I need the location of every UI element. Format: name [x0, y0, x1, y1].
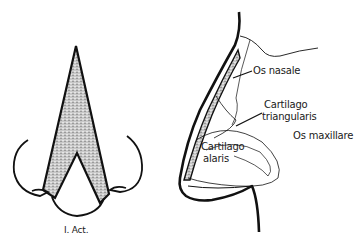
- label-cartilago-alaris-1: Cartilago: [201, 141, 245, 152]
- front-view-caption: I. Act.: [64, 225, 88, 236]
- label-os-maxillare: Os maxillare: [293, 130, 353, 141]
- front-cartilage-shape: [43, 46, 109, 203]
- os-nasale-lower-edge: [232, 40, 250, 125]
- os-nasale-outline: [240, 36, 318, 56]
- label-cartilago-triangularis-2: triangularis: [262, 111, 317, 122]
- front-view: [14, 46, 142, 216]
- label-os-nasale: Os nasale: [253, 65, 300, 76]
- right-ala-curve: [110, 136, 142, 192]
- side-view: [180, 12, 318, 232]
- label-cartilago-triangularis-1: Cartilago: [264, 99, 308, 110]
- nose-anatomy-diagram: [0, 0, 361, 247]
- leader-os-nasale: [233, 71, 252, 78]
- leader-cartilago-triangularis: [236, 113, 262, 126]
- nose-tip-curve: [52, 197, 104, 216]
- nose-profile-outline: [180, 12, 259, 232]
- label-cartilago-alaris-2: alaris: [203, 153, 229, 164]
